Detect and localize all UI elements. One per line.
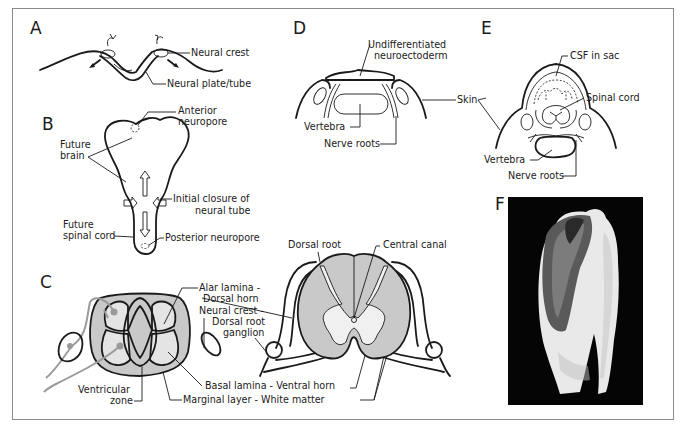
panel-c-letter: C (40, 272, 52, 292)
label-nerve-roots-e: Nerve roots (508, 170, 564, 181)
label-alar-lamina-1: Alar lamina - (199, 282, 260, 293)
panel-b-letter: B (42, 114, 54, 134)
label-vertebra-d: Vertebra (304, 121, 345, 132)
label-future-spinal-cord-2: spinal cord (63, 230, 115, 241)
leader-vertebra-d (350, 104, 360, 127)
label-initial-closure-1: Initial closure of (173, 193, 250, 204)
label-future-brain-1: Future (60, 139, 91, 150)
label-ventricular-zone-1: Ventricular (78, 384, 130, 395)
label-skin: Skin (457, 94, 477, 105)
panel-f: F (495, 194, 643, 405)
panel-a-letter: A (30, 18, 42, 38)
patient-photo (508, 197, 643, 405)
leader-future-spinal-cord (114, 236, 133, 237)
panel-b: B Anterior neuropore Future brain Initia… (42, 105, 260, 254)
panel-f-letter: F (495, 194, 505, 214)
diagram-svg: A Neural crest Neural pla (0, 0, 680, 428)
panel-e-letter: E (481, 18, 492, 38)
label-ventricular-zone-2: zone (110, 395, 133, 406)
panel-e: E CSF in sac Spinal cord (481, 18, 640, 181)
label-future-spinal-cord-1: Future (63, 219, 94, 230)
label-marginal-layer: Marginal layer - White matter (183, 394, 325, 405)
label-alar-lamina-2: Dorsal horn (203, 293, 259, 304)
label-csf-in-sac: CSF in sac (570, 50, 619, 61)
figure-canvas: A Neural crest Neural pla (0, 0, 680, 428)
label-neural-crest-c-3: ganglion (223, 327, 264, 338)
label-initial-closure-2: neural tube (195, 205, 251, 216)
leader-dorsal-root (318, 252, 320, 262)
label-undifferentiated-2: neuroectoderm (374, 50, 448, 61)
leader-marginal-left (163, 372, 182, 400)
panel-d: D Undifferentiated neuroectoderm Vertebr… (293, 18, 500, 149)
label-basal-lamina: Basal lamina - Ventral horn (205, 380, 335, 391)
label-neural-crest: Neural crest (191, 47, 250, 58)
leader-nerve-roots-d (380, 116, 396, 144)
leader-spinal-cord-e (560, 98, 584, 110)
label-future-brain-2: brain (60, 150, 85, 161)
label-neural-plate-tube: Neural plate/tube (167, 78, 251, 89)
label-undifferentiated-1: Undifferentiated (368, 39, 446, 50)
label-dorsal-root: Dorsal root (288, 239, 341, 250)
panel-d-letter: D (293, 18, 306, 38)
label-posterior-neuropore: Posterior neuropore (165, 232, 260, 243)
label-vertebra-e: Vertebra (484, 154, 525, 165)
mature-spinal-cord: Dorsal root Central canal (260, 239, 450, 376)
leader-nerve-roots-e (562, 140, 576, 176)
label-anterior-neuropore-1: Anterior (178, 105, 217, 116)
early-neural-tube-section (44, 294, 190, 393)
label-nerve-roots-d: Nerve roots (324, 138, 380, 149)
myelocele-section (296, 70, 426, 118)
label-neural-crest-c-1: Neural crest - (199, 305, 264, 316)
label-spinal-cord-e: Spinal cord (586, 92, 640, 103)
label-central-canal: Central canal (383, 239, 447, 250)
leader-skin-e (478, 98, 500, 130)
leader-neural-plate (146, 72, 166, 84)
leader-future-brain (88, 138, 132, 182)
panel-a: A Neural crest Neural pla (30, 18, 251, 89)
myelomeningocele-section (496, 64, 616, 157)
label-neural-crest-c-2: Dorsal root (212, 316, 265, 327)
label-anterior-neuropore-2: neuropore (178, 116, 227, 127)
